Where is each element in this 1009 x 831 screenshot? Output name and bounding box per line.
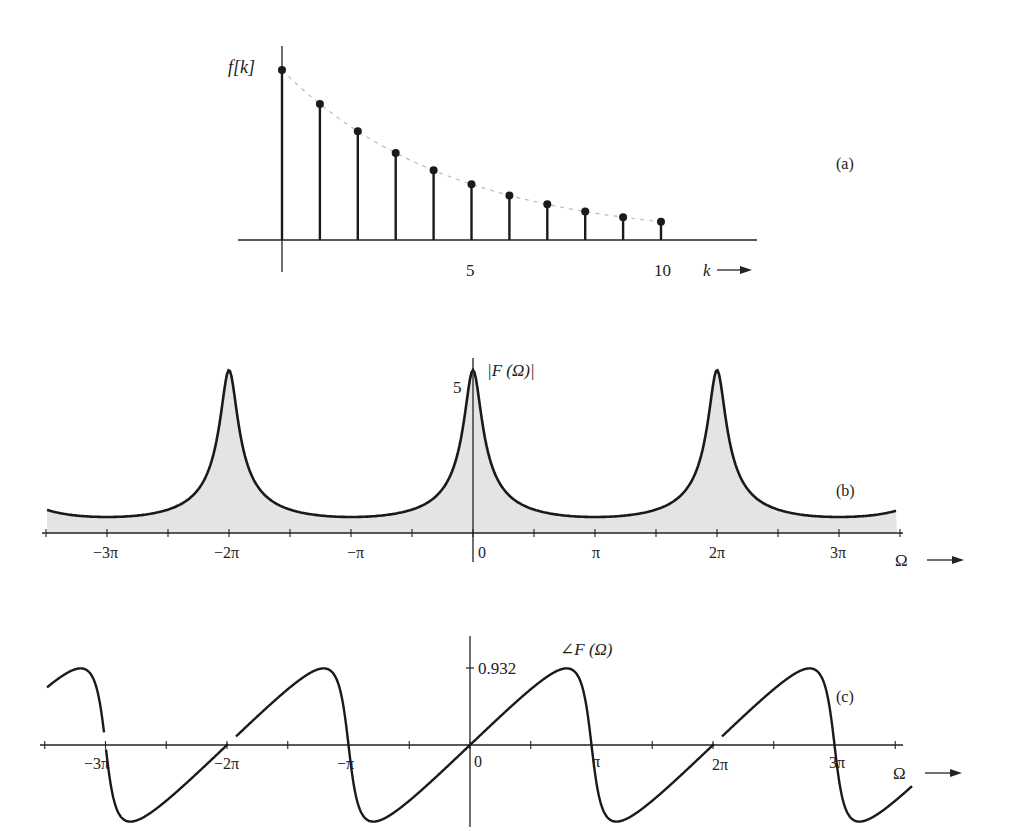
y-label: f[k] <box>228 57 255 77</box>
stem-dot <box>430 166 438 174</box>
panel-label-a: (a) <box>836 155 854 173</box>
stem-dot <box>581 207 589 215</box>
x-label: Ω <box>895 551 908 570</box>
svg-text:3π: 3π <box>829 754 845 771</box>
svg-text:0: 0 <box>474 753 482 770</box>
svg-text:−3π: −3π <box>84 755 109 772</box>
stem-dot <box>657 218 665 226</box>
stem-dot <box>468 180 476 188</box>
svg-text:π: π <box>592 753 600 770</box>
stem-dot <box>543 200 551 208</box>
x-label: k <box>703 261 711 280</box>
arrow-icon <box>927 556 964 564</box>
svg-text:2π: 2π <box>709 544 725 561</box>
x-tick-labels: −3π −2π −π 0 π 2π 3π <box>84 753 845 773</box>
figure: f[k] 5 10 k (a) −3π −2π −π 0 π 2π 3π 5 |… <box>0 0 1009 831</box>
arrow-icon <box>717 266 752 274</box>
x-label: Ω <box>893 764 906 783</box>
stem-dot <box>278 66 286 74</box>
stem-dot <box>619 213 627 221</box>
y-label: ∠F (Ω) <box>560 640 613 659</box>
stem-dot <box>354 127 362 135</box>
phase-segment <box>106 744 228 822</box>
stem-dot <box>505 191 513 199</box>
svg-text:0: 0 <box>478 544 486 561</box>
svg-text:2π: 2π <box>712 756 728 773</box>
panel-b-magnitude-plot: −3π −2π −π 0 π 2π 3π 5 |F (Ω)| (b) Ω <box>42 358 964 570</box>
ymax-label: 0.932 <box>478 659 516 678</box>
svg-text:−2π: −2π <box>214 755 239 772</box>
stem-dot <box>392 149 400 157</box>
stem-dot <box>316 100 324 108</box>
y-label: |F (Ω)| <box>487 361 535 380</box>
svg-text:−π: −π <box>337 755 354 772</box>
x-tick-labels: −3π −2π −π 0 π 2π 3π <box>93 544 846 561</box>
stems <box>278 66 665 240</box>
panel-c-phase-plot: −3π −2π −π 0 π 2π 3π 0.932 ∠F (Ω) (c) Ω <box>40 636 962 827</box>
svg-text:−π: −π <box>347 544 364 561</box>
tick-label-5: 5 <box>466 261 475 280</box>
peak-label: 5 <box>453 378 462 397</box>
phase-segment <box>47 668 104 732</box>
panel-a-stem-plot: f[k] 5 10 k (a) <box>228 46 854 280</box>
svg-text:−2π: −2π <box>214 544 239 561</box>
panel-label-b: (b) <box>836 482 855 500</box>
svg-text:−3π: −3π <box>93 544 118 561</box>
panel-label-c: (c) <box>836 688 854 706</box>
arrow-icon <box>925 769 962 777</box>
svg-text:3π: 3π <box>830 544 846 561</box>
tick-label-10: 10 <box>654 261 671 280</box>
svg-text:π: π <box>592 544 600 561</box>
